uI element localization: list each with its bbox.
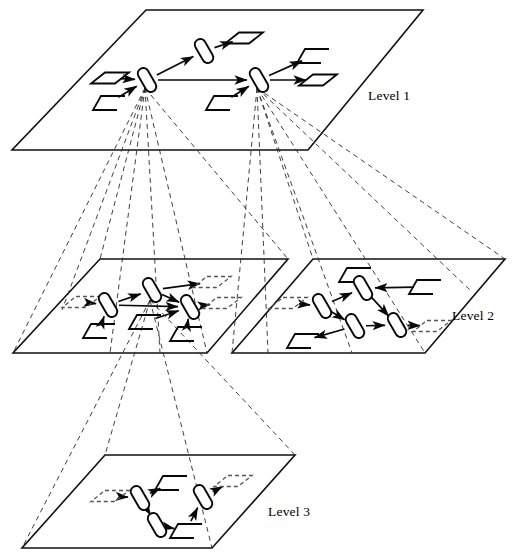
- node-body: [344, 312, 367, 340]
- process-node-L2L-N1: [97, 291, 120, 319]
- process-node-L2R-N1: [311, 292, 334, 320]
- level-2-left-edge-L2L-N1-to-L2L-N3: [119, 305, 178, 306]
- fan-from-L1-N3-ray-0: [232, 88, 257, 353]
- node-body: [141, 276, 164, 304]
- figure-canvas: Level 1Level 2Level 3: [0, 0, 518, 557]
- node-body: [386, 311, 409, 339]
- flag-shape-L2R-OUT2: [287, 334, 319, 348]
- level-1-edge-L1-N1-to-L1-N2: [157, 56, 194, 75]
- level-2-left-edge-L2L-IN2-to-L2L-N1: [103, 316, 104, 320]
- hierarchy-diagram: Level 1Level 2Level 3: [0, 0, 518, 557]
- node-body: [193, 37, 216, 65]
- level-3-edge-L3-N2-to-L3-IN2: [168, 527, 174, 528]
- node-body: [192, 483, 215, 511]
- level-2-left-edge-L2L-IN4-to-L2L-N3: [188, 319, 189, 323]
- level-2-right-edge-L2R-N2-to-L2R-N4: [370, 296, 388, 316]
- flag-outline: [287, 334, 319, 348]
- flag-outline: [409, 280, 441, 294]
- process-node-L3-N2: [146, 511, 169, 539]
- fan-from-L2-left-to-L3-ray-3: [150, 300, 295, 455]
- level-2-right-edge-L2R-OUT1-to-L2R-N2: [375, 287, 414, 288]
- process-node-L2R-N4: [386, 311, 409, 339]
- process-node-L1-N2: [193, 37, 216, 65]
- node-body: [248, 66, 271, 94]
- node-body: [311, 292, 334, 320]
- flag-outline: [206, 96, 238, 110]
- io-shapes-layer: [62, 33, 451, 539]
- fan-from-L1-N3-ray-1: [257, 88, 313, 259]
- flag-shape-L2R-OUT1: [409, 280, 441, 294]
- level-2-left-edge-L2L-N2-to-L2L-N3: [162, 294, 179, 302]
- level-label-3: Level 3: [268, 504, 310, 519]
- process-node-L2R-N3: [344, 312, 367, 340]
- flag-outline: [83, 324, 115, 338]
- flag-shape-L2L-IN3: [129, 315, 161, 329]
- fan-from-L1-N3-ray-3: [257, 88, 505, 259]
- ghost-data-shape-L3-OUT2: [214, 476, 252, 487]
- flag-shape-L2L-IN4: [170, 327, 202, 341]
- flag-outline: [170, 327, 202, 341]
- flag-shape-L3-IN2: [170, 524, 202, 538]
- level-2-right-edge-L2R-N3-to-L2R-OUT2: [315, 329, 345, 338]
- node-body: [136, 66, 159, 94]
- fan-from-L1-N1-ray-5: [145, 88, 160, 353]
- node-body: [352, 274, 375, 302]
- level-1-edge-L1-N2-to-L1-OUT1: [214, 42, 232, 48]
- fan-from-L1-N3-ray-5: [257, 88, 352, 353]
- fan-from-L1-N1-ray-6: [62, 88, 145, 310]
- ghost-data-shape-L2L-OUT1: [193, 277, 231, 288]
- node-body: [146, 511, 169, 539]
- level-label-1: Level 1: [368, 88, 410, 103]
- level-2-right-edge-L2R-N1-to-L2R-N3: [331, 312, 344, 320]
- level-2-right-edge-L2R-IN1-to-L2R-N1: [299, 304, 310, 305]
- process-node-L2R-N2: [352, 274, 375, 302]
- flag-outline: [93, 96, 125, 110]
- level-3-edge-L3-N3-to-L3-OUT2: [213, 487, 223, 492]
- ghost-data-shape-L2L-OUT2: [203, 298, 241, 309]
- process-node-L1-N3: [248, 66, 271, 94]
- data-shape-L1-IN1: [91, 73, 129, 84]
- flag-shape-L2L-IN2: [83, 324, 115, 338]
- level-3-edge-L3-IN2-to-L3-N3: [191, 508, 198, 521]
- data-shape-L1-OUT3: [299, 75, 337, 86]
- flag-shape-L1-IN3: [206, 96, 238, 110]
- node-body: [97, 291, 120, 319]
- fan-from-L1-N1-ray-1: [100, 88, 145, 259]
- process-node-L2L-N2: [141, 276, 164, 304]
- flag-outline: [170, 524, 202, 538]
- level-label-2: Level 2: [452, 308, 494, 323]
- fan-from-L1-N3-ray-2: [257, 88, 425, 353]
- projection-lines-layer: [13, 88, 505, 548]
- flag-outline: [129, 315, 161, 329]
- node-body: [129, 484, 152, 512]
- fan-from-L2-left-to-L3-ray-2: [150, 300, 212, 548]
- node-body: [179, 293, 202, 321]
- level-2-left-edge-L2L-N1-to-L2L-N2: [118, 294, 140, 302]
- fan-from-L1-N3-ray-4: [257, 88, 268, 353]
- level-2-right-edge-L2R-N1-to-L2R-N2: [332, 293, 352, 302]
- process-node-L3-N1: [129, 484, 152, 512]
- ghost-data-shape-L2L-IN1: [62, 297, 100, 308]
- process-node-L1-N1: [136, 66, 159, 94]
- process-nodes-layer: [97, 37, 409, 539]
- ghost-data-shape-L3-IN1: [91, 491, 129, 502]
- process-node-L2L-N3: [179, 293, 202, 321]
- level-1-edge-L1-IN1-to-L1-N1: [121, 79, 135, 80]
- process-node-L3-N3: [192, 483, 215, 511]
- flag-shape-L1-IN2: [93, 96, 125, 110]
